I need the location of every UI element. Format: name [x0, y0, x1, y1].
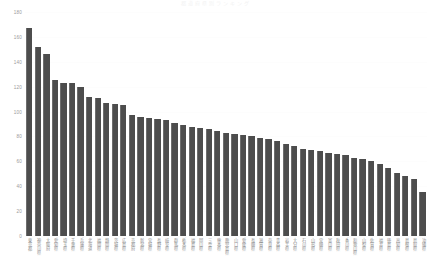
- x-axis-tick-label: 栃木県: [181, 238, 185, 270]
- bar-slot: [136, 12, 145, 236]
- x-label-slot: 千葉県: [68, 238, 77, 270]
- x-axis-tick-label: 北海道: [87, 238, 91, 270]
- x-label-slot: 茨城県: [110, 238, 119, 270]
- bar-slot: [187, 12, 196, 236]
- x-label-slot: 富山県: [324, 238, 333, 270]
- bar[interactable]: [419, 192, 425, 236]
- bar[interactable]: [214, 131, 220, 236]
- bar[interactable]: [52, 80, 58, 236]
- bar[interactable]: [35, 47, 41, 236]
- bar[interactable]: [240, 135, 246, 236]
- bar-slot: [375, 12, 384, 236]
- bar[interactable]: [180, 125, 186, 236]
- bar[interactable]: [197, 128, 203, 236]
- bar[interactable]: [86, 97, 92, 236]
- bar[interactable]: [129, 115, 135, 236]
- x-label-slot: 山梨県: [358, 238, 367, 270]
- bar[interactable]: [342, 155, 348, 236]
- x-axis-tick-label: 群馬県: [172, 238, 176, 270]
- x-label-slot: 福岡県: [93, 238, 102, 270]
- x-axis-tick-label: 徳島県: [386, 238, 390, 270]
- bar[interactable]: [385, 168, 391, 236]
- bar[interactable]: [291, 146, 297, 236]
- x-axis-tick-label: 宮崎県: [318, 238, 322, 270]
- bar[interactable]: [402, 176, 408, 236]
- bar-slot: [281, 12, 290, 236]
- bar[interactable]: [359, 159, 365, 236]
- x-axis-tick-label: 東京都: [27, 238, 31, 270]
- bar[interactable]: [95, 98, 101, 236]
- x-axis-labels: 東京都神奈川県大阪府愛知県埼玉県千葉県兵庫県北海道福岡県静岡県茨城県広島県京都府…: [25, 238, 427, 270]
- y-axis-tick-label: 0: [19, 234, 22, 239]
- bar[interactable]: [146, 118, 152, 236]
- bar-slot: [59, 12, 68, 236]
- bar[interactable]: [248, 136, 254, 236]
- bar[interactable]: [154, 119, 160, 236]
- bar[interactable]: [206, 129, 212, 236]
- y-axis-tick-label: 140: [14, 59, 22, 64]
- bar-slot: [247, 12, 256, 236]
- x-axis-tick-label: 佐賀県: [369, 238, 373, 270]
- bar[interactable]: [189, 127, 195, 237]
- bar-slot: [367, 12, 376, 236]
- x-axis-tick-label: 宮城県: [147, 238, 151, 270]
- bar[interactable]: [325, 153, 331, 236]
- x-label-slot: 兵庫県: [76, 238, 85, 270]
- bar[interactable]: [257, 138, 263, 236]
- x-axis-tick-label: 奈良県: [266, 238, 270, 270]
- x-axis-tick-label: 福井県: [377, 238, 381, 270]
- bar[interactable]: [377, 164, 383, 236]
- bar-slot: [145, 12, 154, 236]
- bar[interactable]: [394, 173, 400, 236]
- x-label-slot: 大分県: [290, 238, 299, 270]
- bar[interactable]: [60, 83, 66, 236]
- bar[interactable]: [137, 117, 143, 236]
- bar-slot: [341, 12, 350, 236]
- bar[interactable]: [120, 105, 126, 236]
- x-label-slot: 埼玉県: [59, 238, 68, 270]
- bar-slot: [264, 12, 273, 236]
- bar[interactable]: [317, 151, 323, 236]
- bar[interactable]: [368, 161, 374, 236]
- x-label-slot: 徳島県: [384, 238, 393, 270]
- x-label-slot: 愛媛県: [239, 238, 248, 270]
- bar[interactable]: [77, 87, 83, 236]
- bar[interactable]: [411, 179, 417, 236]
- bar[interactable]: [69, 83, 75, 236]
- bar[interactable]: [283, 144, 289, 236]
- x-label-slot: 静岡県: [102, 238, 111, 270]
- x-label-slot: 山口県: [230, 238, 239, 270]
- x-axis-tick-label: 千葉県: [70, 238, 74, 270]
- bar[interactable]: [265, 139, 271, 236]
- bar[interactable]: [103, 103, 109, 236]
- bar-slot: [110, 12, 119, 236]
- bar[interactable]: [223, 133, 229, 236]
- x-axis-tick-label: 沖縄県: [420, 238, 424, 270]
- bar-slot: [239, 12, 248, 236]
- bar-chart: 都道府県別ランキング 180160140120100806040200 東京都神…: [0, 0, 431, 272]
- bar[interactable]: [171, 123, 177, 236]
- x-axis-tick-label: 和歌山県: [352, 238, 356, 270]
- y-axis-tick-label: 120: [14, 84, 22, 89]
- x-axis-tick-label: 鹿児島県: [224, 238, 228, 270]
- x-axis-tick-label: 大分県: [292, 238, 296, 270]
- x-label-slot: 新潟県: [136, 238, 145, 270]
- bar[interactable]: [351, 158, 357, 236]
- bar[interactable]: [300, 149, 306, 236]
- bar[interactable]: [163, 120, 169, 236]
- y-axis-tick-label: 20: [16, 209, 22, 214]
- bar[interactable]: [334, 154, 340, 236]
- bar[interactable]: [43, 54, 49, 236]
- bar[interactable]: [308, 150, 314, 236]
- x-label-slot: 京都府: [128, 238, 137, 270]
- bar[interactable]: [26, 28, 32, 236]
- bar[interactable]: [112, 104, 118, 236]
- bar[interactable]: [231, 134, 237, 236]
- x-label-slot: 宮城県: [145, 238, 154, 270]
- bar[interactable]: [274, 141, 280, 236]
- x-label-slot: 三重県: [204, 238, 213, 270]
- y-axis-tick-label: 180: [14, 10, 22, 15]
- bar-slot: [25, 12, 34, 236]
- bar-slot: [85, 12, 94, 236]
- x-axis-tick-label: 長崎県: [249, 238, 253, 270]
